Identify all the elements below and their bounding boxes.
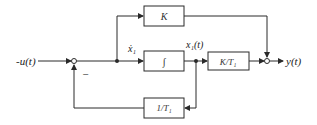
branch-to-k-arrow [117,16,143,61]
block-diagram: -u(t) − K ẋ₁ ∫ x₁(t) K/T₁ y(t) 1/T₁ [0,0,317,125]
gain-k-over-t1-label: K/T₁ [219,57,237,67]
input-label: -u(t) [16,55,36,68]
output-label: y(t) [285,55,302,68]
x1-to-feedback-arrow [185,61,196,108]
k-to-sum-arrow [184,16,267,57]
summing-junction-input [72,59,77,64]
xdot-label: ẋ₁ [127,43,136,54]
minus-sign: − [82,68,89,80]
gain-k-label: K [160,11,169,22]
x1-label: x₁(t) [185,39,204,51]
summing-junction-output [265,59,270,64]
feedback-1-over-t1-label: 1/T₁ [156,103,171,113]
